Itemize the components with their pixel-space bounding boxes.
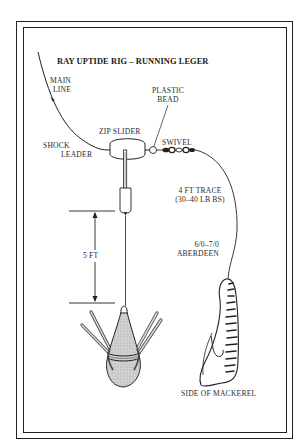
label-main-line: MAIN LINE (50, 76, 71, 94)
label-plastic-bead: PLASTIC BEAD (146, 86, 190, 104)
label-main-line-1: MAIN (50, 76, 71, 85)
label-hook-2: ABERDEEN (165, 249, 219, 258)
label-trace: 4 FT TRACE (30–40 LB BS) (164, 186, 236, 204)
label-bait: SIDE OF MACKEREL (181, 389, 256, 398)
mackerel-bait-icon (200, 279, 238, 386)
label-shock-leader: SHOCK LEADER (43, 141, 92, 159)
plastic-bead-icon (150, 147, 157, 154)
label-swivel: SWIVEL (162, 138, 192, 147)
grip-lead-sinker-icon (82, 306, 161, 387)
label-hook-1: 6/0–7/0 (165, 240, 219, 249)
label-plastic-bead-2: BEAD (146, 95, 190, 104)
label-trace-1: 4 FT TRACE (164, 186, 236, 195)
main-line-icon (38, 52, 108, 150)
diagram-title: RAY UPTIDE RIG – RUNNING LEGER (57, 57, 209, 66)
rig-illustration (0, 0, 306, 447)
trace-line-icon (196, 150, 237, 278)
label-zip-slider: ZIP SLIDER (99, 127, 141, 136)
label-trace-2: (30–40 LB BS) (164, 195, 236, 204)
ray-uptide-rig-diagram: RAY UPTIDE RIG – RUNNING LEGER MAIN LINE… (0, 0, 306, 447)
label-plastic-bead-1: PLASTIC (146, 86, 190, 95)
label-shock-leader-1: SHOCK (43, 141, 92, 150)
label-hook: 6/0–7/0 ABERDEEN (165, 240, 219, 258)
zip-slider-icon (108, 139, 150, 216)
label-distance: 5 FT (83, 251, 98, 260)
swivel-icon (157, 147, 197, 152)
label-shock-leader-2: LEADER (43, 150, 92, 159)
label-main-line-2: LINE (50, 85, 71, 94)
